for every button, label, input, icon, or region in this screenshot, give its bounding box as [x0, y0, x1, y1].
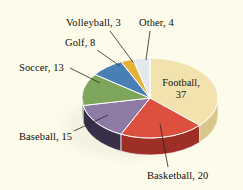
slice-label-golf: Golf, 8: [65, 37, 95, 49]
slice-label-football-line1: Football,: [162, 77, 200, 88]
leader-line-volleyball: [110, 31, 133, 62]
leader-line-golf: [97, 50, 120, 66]
pie-chart-figure: Volleyball, 3 Other, 4 Golf, 8 Soccer, 1…: [0, 0, 243, 190]
slice-label-basketball: Basketball, 20: [147, 170, 208, 182]
leader-line-other: [146, 31, 150, 60]
slice-label-football-line2: 37: [176, 89, 187, 100]
slice-label-baseball: Baseball, 15: [19, 131, 72, 143]
slice-label-other: Other, 4: [139, 17, 174, 29]
slice-label-football: Football, 37: [152, 77, 210, 102]
slice-label-soccer: Soccer, 13: [19, 62, 64, 74]
slice-label-volleyball: Volleyball, 3: [66, 17, 121, 29]
